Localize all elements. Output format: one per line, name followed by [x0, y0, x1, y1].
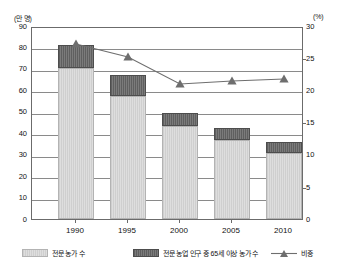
- legend-item-total-farms[interactable]: 전문 농가 수: [22, 248, 85, 258]
- y-axis-tick-90: 90: [3, 23, 27, 31]
- y2-ticklet: [303, 59, 306, 60]
- ratio-marker-2000: [175, 80, 184, 88]
- y-axis-tick-70: 70: [3, 65, 27, 73]
- right-axis-unit-label: (%): [313, 13, 323, 20]
- legend-item-ratio[interactable]: 비중: [271, 248, 313, 258]
- x-axis-tick-1990: 1990: [45, 226, 105, 235]
- x-ticklet: [127, 220, 128, 223]
- legend-swatch-light-gray-icon: [22, 249, 48, 257]
- legend-label-elderly-farms: 전문 농업 인구 중 65세 이상 농가 수: [163, 248, 258, 258]
- y-axis-tick-10: 10: [3, 194, 27, 202]
- x-axis-tick-2010: 2010: [253, 226, 313, 235]
- bar-segment-elderly: [162, 113, 198, 126]
- bar-segment-base: [162, 126, 198, 219]
- y-axis-tick-40: 40: [3, 130, 27, 138]
- y2-axis-tick-25: 25: [306, 55, 330, 63]
- y2-ticklet: [303, 123, 306, 124]
- bar-segment-elderly: [110, 75, 146, 96]
- plot-area: [31, 27, 303, 220]
- x-axis-tick-2000: 2000: [149, 226, 209, 235]
- bar-segment-elderly: [266, 142, 302, 153]
- legend-label-ratio: 비중: [301, 248, 313, 258]
- bar-segment-base: [110, 96, 146, 219]
- legend-swatch-dark-gray-icon: [133, 249, 159, 257]
- x-ticklet: [179, 220, 180, 223]
- y2-axis-tick-20: 20: [306, 87, 330, 95]
- bar-segment-elderly: [214, 128, 250, 140]
- ratio-line: [76, 44, 284, 84]
- x-ticklet: [231, 220, 232, 223]
- bar-segment-elderly: [58, 45, 94, 68]
- y2-axis-tick-15: 15: [306, 119, 330, 127]
- bar-segment-base: [266, 153, 302, 219]
- bar-segment-base: [214, 140, 250, 219]
- y-axis-tick-0: 0: [3, 216, 27, 224]
- y-axis-tick-30: 30: [3, 151, 27, 159]
- bar-segment-base: [58, 68, 94, 219]
- chart-container: (만 명) (%) 90 80 70 60 50 40 30 20 10 0 3…: [0, 0, 345, 271]
- y2-axis-tick-5: 5: [306, 184, 330, 192]
- legend-line-triangle-marker-icon: [271, 249, 297, 258]
- ratio-marker-1995: [123, 53, 132, 61]
- y-axis-tick-50: 50: [3, 108, 27, 116]
- y2-ticklet: [303, 188, 306, 189]
- y-axis-tick-80: 80: [3, 44, 27, 52]
- legend-label-total-farms: 전문 농가 수: [52, 248, 85, 258]
- x-ticklet: [75, 220, 76, 223]
- x-axis-tick-1995: 1995: [97, 226, 157, 235]
- ratio-marker-2010: [279, 75, 288, 83]
- y2-axis-tick-10: 10: [306, 151, 330, 159]
- x-axis-tick-2005: 2005: [201, 226, 261, 235]
- y-axis-tick-60: 60: [3, 87, 27, 95]
- y-axis-tick-20: 20: [3, 173, 27, 181]
- legend-item-elderly-farms[interactable]: 전문 농업 인구 중 65세 이상 농가 수: [133, 248, 258, 258]
- ratio-marker-2005: [227, 77, 236, 85]
- chart-legend: 전문 농가 수 전문 농업 인구 중 65세 이상 농가 수 비중: [0, 246, 345, 262]
- y2-axis-tick-0: 0: [306, 216, 330, 224]
- y2-axis-tick-30: 30: [306, 23, 330, 31]
